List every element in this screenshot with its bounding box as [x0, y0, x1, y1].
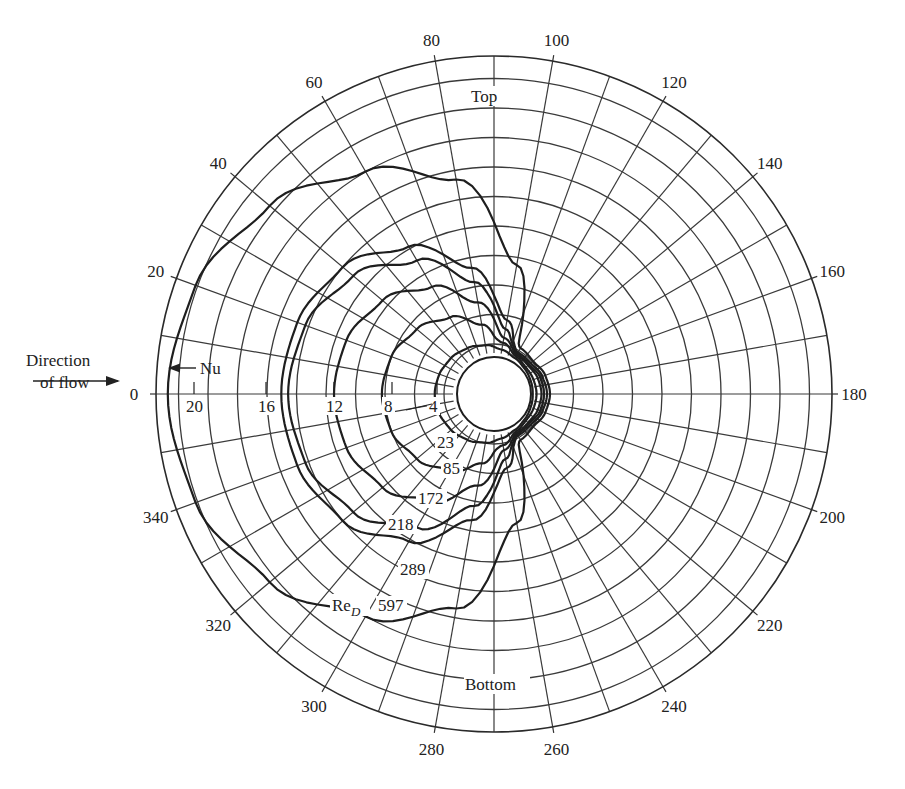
- angle-tick-100: [553, 55, 554, 61]
- angle-label-0: 0: [130, 385, 139, 404]
- angle-label-100: 100: [544, 31, 570, 50]
- angle-label-80: 80: [423, 31, 440, 50]
- flow-direction-label-line2: of flow: [40, 373, 90, 392]
- angle-label-120: 120: [661, 73, 687, 92]
- flow-direction-label-line1: Direction: [26, 351, 91, 370]
- angle-label-320: 320: [205, 616, 231, 635]
- grid-spoke-70: [378, 76, 480, 355]
- bottom-label: Bottom: [465, 675, 516, 694]
- re-label-597: 597: [378, 596, 404, 615]
- re-d-subscript: D: [350, 604, 361, 619]
- angle-tick-160: [812, 276, 818, 278]
- angle-label-220: 220: [757, 616, 783, 635]
- angle-label-140: 140: [757, 154, 783, 173]
- re-label-85: 85: [443, 459, 460, 478]
- re-label-23: 23: [437, 433, 454, 452]
- angle-tick-60: [322, 96, 325, 101]
- angle-tick-340: [171, 510, 177, 512]
- angle-tick-120: [663, 96, 666, 101]
- angle-label-160: 160: [820, 262, 846, 281]
- grid-spoke-190: [534, 401, 826, 453]
- angle-tick-280: [434, 727, 435, 733]
- nu-tick-label-12: 12: [326, 397, 343, 416]
- top-label: Top: [471, 87, 497, 106]
- grid-spoke-170: [534, 335, 826, 387]
- angle-tick-20: [171, 276, 177, 278]
- angle-label-40: 40: [210, 154, 227, 173]
- angle-tick-40: [230, 173, 235, 177]
- re-label-289: 289: [400, 560, 426, 579]
- angle-label-280: 280: [419, 740, 445, 759]
- angle-tick-140: [753, 173, 758, 177]
- angle-tick-80: [434, 55, 435, 61]
- nu-tick-label-20: 20: [186, 397, 203, 416]
- nu-tick-label-16: 16: [258, 397, 275, 416]
- grid-spoke-30: [201, 225, 458, 374]
- grid-spoke-60: [325, 101, 474, 358]
- re-labels: 2385172218289597ReD: [330, 404, 463, 619]
- polar-chart: 0204060801001201401601802002202402602803…: [0, 0, 905, 789]
- angle-label-200: 200: [820, 508, 846, 527]
- nu-arrow-label: Nu: [200, 359, 221, 378]
- angle-label-340: 340: [143, 508, 169, 527]
- re-label-172: 172: [418, 489, 444, 508]
- angle-label-180: 180: [841, 385, 867, 404]
- cylinder: [457, 357, 531, 431]
- angle-tick-260: [553, 727, 554, 733]
- grid-spoke-160: [533, 278, 812, 380]
- grid-spoke-210: [530, 415, 787, 564]
- angle-tick-240: [663, 687, 666, 692]
- grid-spoke-120: [515, 101, 664, 358]
- angle-tick-220: [753, 611, 758, 615]
- grid-spoke-150: [530, 225, 787, 374]
- nu-arrow-icon: [168, 364, 196, 373]
- grid-spoke-240: [515, 430, 664, 687]
- angle-label-240: 240: [661, 697, 687, 716]
- nu-tick-label-4: 4: [429, 397, 438, 416]
- angle-tick-300: [322, 687, 325, 692]
- angle-label-60: 60: [306, 73, 323, 92]
- angle-label-20: 20: [147, 262, 164, 281]
- angle-label-300: 300: [301, 697, 327, 716]
- nu-tick-label-8: 8: [384, 397, 393, 416]
- grid-spoke-290: [378, 433, 480, 712]
- re-label-218: 218: [388, 515, 414, 534]
- angle-label-260: 260: [544, 740, 570, 759]
- angle-tick-320: [230, 611, 235, 615]
- grid-spoke-200: [533, 408, 812, 510]
- angle-tick-200: [812, 510, 818, 512]
